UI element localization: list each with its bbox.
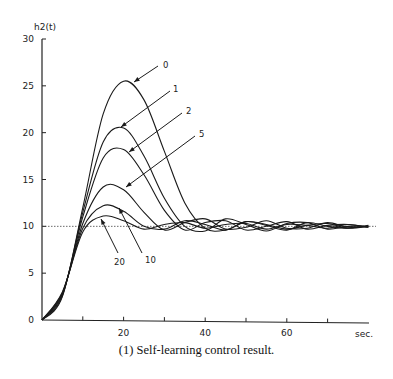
curve-label: 20 — [114, 257, 125, 267]
y-tick-label: 10 — [23, 221, 35, 231]
curve-label: 2 — [186, 106, 191, 116]
annotation-1: 1 — [121, 84, 178, 127]
y-axis: 051015202530 h2(t) — [23, 22, 56, 325]
x-axis: 204060 sec. — [42, 316, 373, 339]
arrow-icon — [126, 182, 132, 187]
y-tick-label: 25 — [23, 81, 34, 91]
curve-2 — [42, 148, 368, 320]
curves — [42, 81, 368, 320]
arrow-icon — [101, 219, 105, 225]
x-axis-label: sec. — [355, 329, 373, 339]
arrow-icon — [134, 77, 140, 82]
curve-label: 5 — [199, 129, 204, 139]
arrow-icon — [121, 122, 127, 127]
curve-5 — [42, 184, 368, 320]
y-tick-label: 15 — [23, 175, 34, 185]
curve-label: 1 — [173, 84, 178, 94]
annotation-5: 5 — [126, 129, 204, 187]
figure-caption: (1) Self-learning control result. — [0, 343, 393, 358]
y-tick-label: 30 — [23, 34, 35, 44]
y-tick-label: 20 — [23, 128, 35, 138]
curve-label: 10 — [145, 255, 156, 265]
y-tick-label: 5 — [28, 268, 34, 278]
line-chart: 051015202530 h2(t) 204060 sec. 01251020 — [0, 0, 393, 379]
curve-annotations: 01251020 — [101, 60, 204, 267]
annotation-0: 0 — [134, 60, 168, 82]
y-axis-label: h2(t) — [34, 22, 56, 32]
x-tick-label: 60 — [281, 328, 293, 338]
y-tick-label: 0 — [28, 315, 34, 325]
curve-label: 0 — [163, 60, 168, 70]
x-tick-label: 40 — [199, 328, 211, 338]
x-tick-label: 20 — [118, 328, 130, 338]
curve-0 — [42, 81, 368, 320]
arrow-icon — [129, 147, 135, 152]
